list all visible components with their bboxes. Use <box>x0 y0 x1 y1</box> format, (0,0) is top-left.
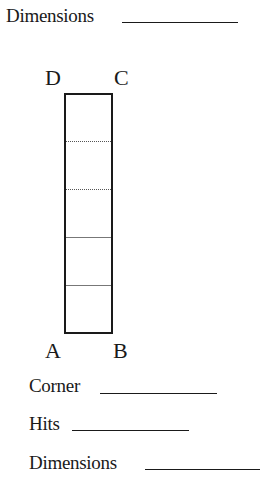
hits-field-label: Hits <box>29 414 59 433</box>
section-divider-3 <box>66 237 111 238</box>
rectangle-diagram <box>64 93 113 334</box>
section-divider-4 <box>66 285 111 286</box>
corner-label-c: C <box>114 67 129 89</box>
top-dimensions-blank[interactable] <box>122 22 238 23</box>
hits-field-blank[interactable] <box>72 430 189 431</box>
corner-field-blank[interactable] <box>100 393 217 394</box>
top-dimensions-label: Dimensions <box>6 6 94 25</box>
dimensions-field-label: Dimensions <box>29 453 117 472</box>
corner-label-a: A <box>45 340 61 362</box>
section-divider-1 <box>66 141 111 142</box>
dimensions-field-blank[interactable] <box>145 469 260 470</box>
corner-field-label: Corner <box>29 376 80 395</box>
section-divider-2 <box>66 189 111 190</box>
corner-label-b: B <box>113 340 128 362</box>
corner-label-d: D <box>45 67 61 89</box>
